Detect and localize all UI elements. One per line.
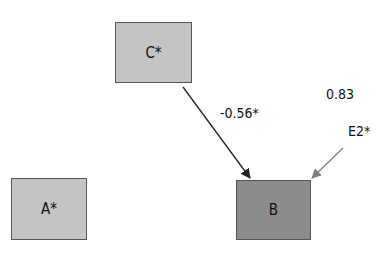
error-term-label: E2*	[348, 123, 370, 139]
node-a: A*	[11, 178, 87, 240]
node-a-label: A*	[41, 200, 57, 218]
node-c-label: C*	[145, 44, 161, 62]
node-b: B	[236, 180, 311, 240]
edge-c-b-coefficient: -0.56*	[220, 105, 259, 121]
edge-e2-to-b	[312, 148, 343, 178]
node-c: C*	[115, 22, 192, 83]
edge-c-to-b	[183, 87, 250, 178]
error-variance-label: 0.83	[326, 86, 354, 102]
node-b-label: B	[269, 201, 278, 219]
